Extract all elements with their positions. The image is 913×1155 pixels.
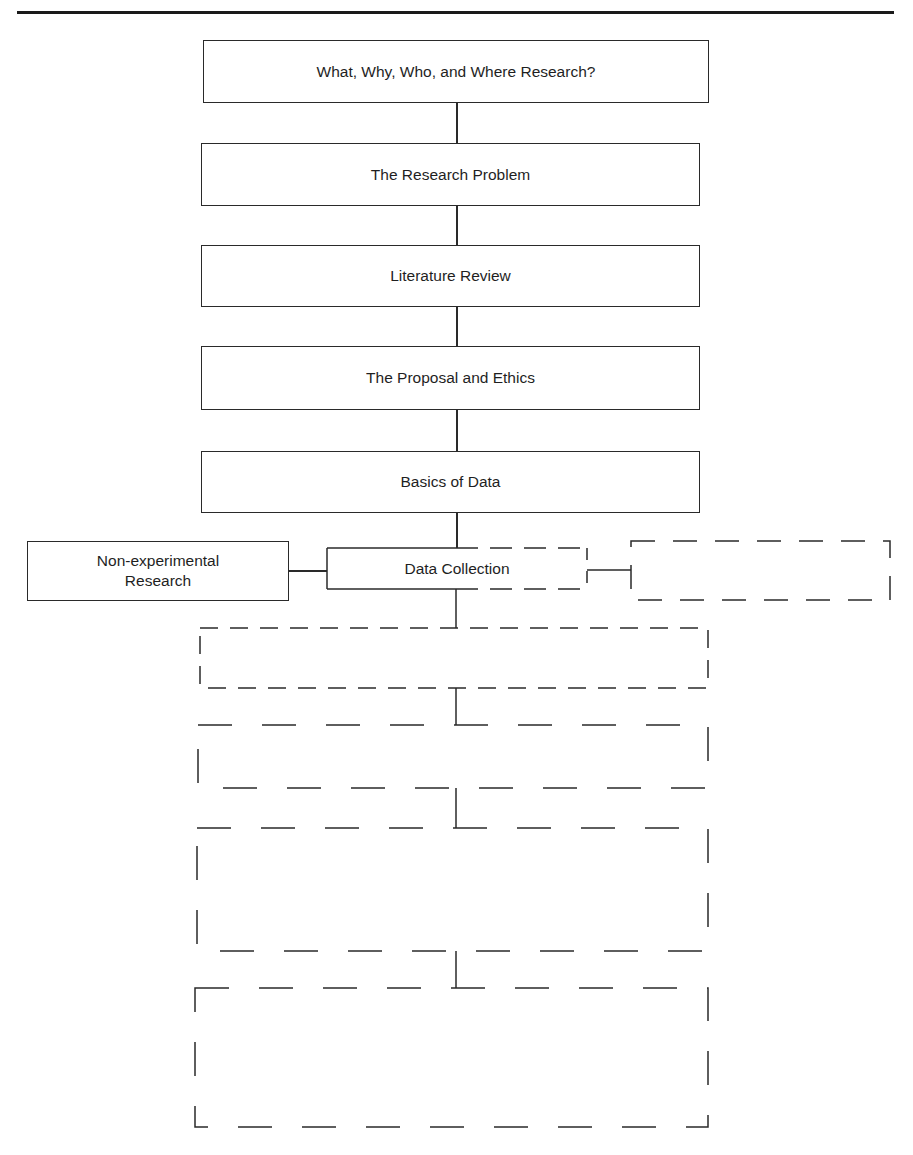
step-box-empty-4 [195, 988, 708, 1127]
step-box-empty-2 [198, 725, 708, 788]
step-box-empty-1 [200, 628, 708, 688]
step-label: Data Collection [404, 560, 509, 578]
step-box-empty-3 [197, 828, 708, 951]
branch-box-right-empty [631, 541, 890, 600]
step-box-data-collection: Data Collection [327, 548, 587, 589]
